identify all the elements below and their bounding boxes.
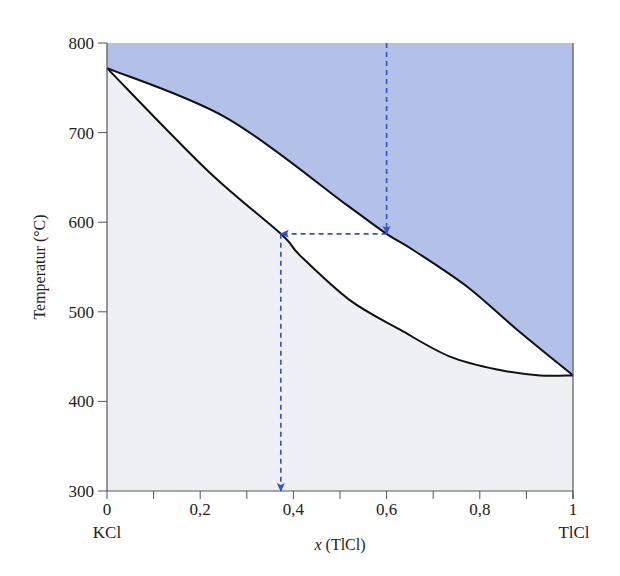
x-tick-label: 0	[103, 500, 112, 519]
x-tick-label: 0,6	[376, 500, 397, 519]
y-tick-label: 300	[69, 482, 95, 501]
y-tick-label: 800	[69, 34, 95, 53]
x-tick-label: 0,2	[190, 500, 211, 519]
x-axis-title: x (TlCl)	[313, 536, 365, 554]
y-tick-label: 600	[69, 213, 95, 232]
x-tick-label: 1	[569, 500, 578, 519]
right-endpoint-label: TlCl	[558, 523, 589, 542]
y-tick-label: 700	[69, 124, 95, 143]
left-endpoint-label: KCl	[93, 523, 122, 542]
x-tick-label: 0,4	[283, 500, 305, 519]
y-tick-label: 400	[69, 392, 95, 411]
phase-diagram-chart: 30040050060070080000,20,40,60,81 Tempera…	[0, 0, 620, 576]
y-tick-label: 500	[69, 303, 95, 322]
x-tick-label: 0,8	[469, 500, 490, 519]
y-axis-title: Temperatur (°C)	[31, 214, 49, 319]
plot-area	[107, 43, 573, 491]
